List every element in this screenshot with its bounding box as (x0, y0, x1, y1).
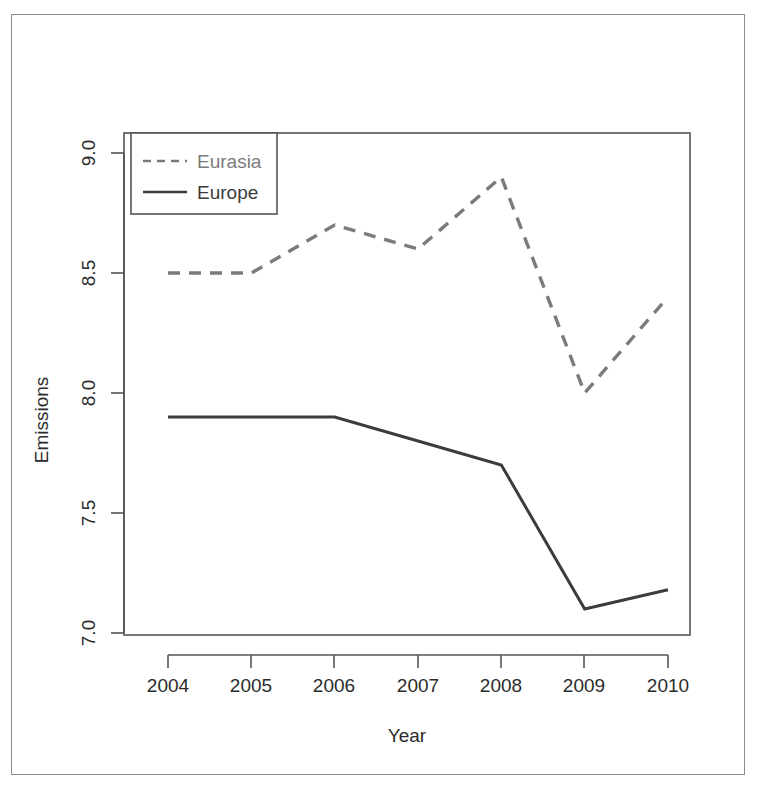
y-tick-label-3: 8.5 (78, 260, 99, 286)
x-tick-label-1: 2005 (230, 675, 272, 696)
y-tick-label-1: 7.5 (78, 500, 99, 526)
series-group (168, 177, 668, 609)
y-axis-title: Emissions (31, 377, 52, 464)
y-tick-label-4: 9.0 (78, 140, 99, 166)
series-line-europe (168, 417, 668, 609)
line-chart: 9.0 8.5 8.0 7.5 7.0 2004 2005 2006 2007 … (0, 0, 761, 793)
y-tick-label-2: 8.0 (78, 380, 99, 406)
x-tick-label-5: 2009 (563, 675, 605, 696)
x-tick-label-0: 2004 (147, 675, 190, 696)
y-axis: 9.0 8.5 8.0 7.5 7.0 (78, 140, 124, 646)
x-tick-label-4: 2008 (480, 675, 522, 696)
x-axis: 2004 2005 2006 2007 2008 2009 2010 (147, 655, 689, 696)
legend: Eurasia Europe (131, 133, 277, 214)
legend-label-eurasia: Eurasia (197, 151, 262, 172)
y-tick-label-0: 7.0 (78, 620, 99, 646)
figure-root: 9.0 8.5 8.0 7.5 7.0 2004 2005 2006 2007 … (0, 0, 761, 793)
legend-label-europe: Europe (197, 182, 258, 203)
x-tick-label-2: 2006 (313, 675, 355, 696)
x-axis-title: Year (388, 725, 427, 746)
x-tick-label-3: 2007 (397, 675, 439, 696)
x-tick-label-6: 2010 (647, 675, 689, 696)
